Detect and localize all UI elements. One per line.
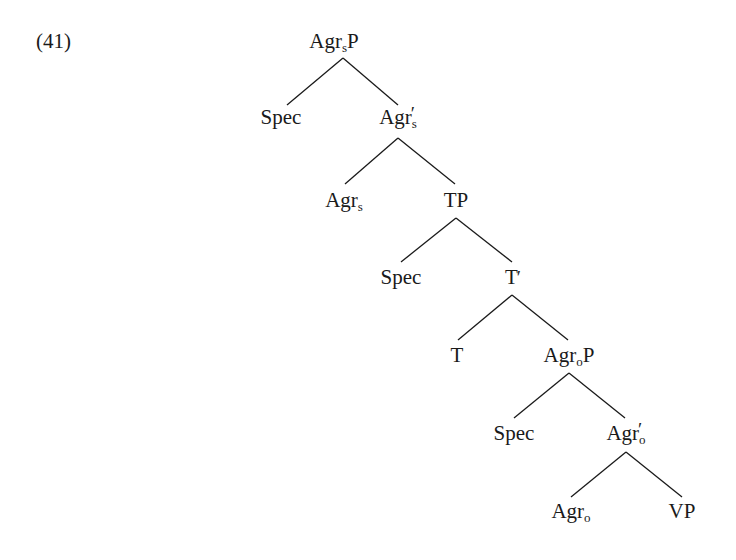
bar-level-prime: ′	[638, 420, 642, 439]
tree-branch-t-bar-to-agrop	[512, 295, 568, 340]
tree-branch-tp-to-t-bar	[456, 218, 512, 262]
node-label: Agr	[551, 499, 584, 523]
tree-branch-tp-to-spec2	[401, 218, 456, 262]
tree-branch-agrop-to-agro-bar	[569, 373, 625, 418]
node-subscript: s	[358, 199, 363, 214]
tree-node-agrsp: AgrsP	[309, 31, 358, 52]
tree-branch-agrsp-to-spec1	[287, 58, 343, 105]
tree-branch-agro-bar-to-vp	[626, 452, 682, 497]
node-label: Agr	[325, 188, 358, 212]
node-label: VP	[669, 499, 696, 523]
tree-node-t-bar: T′	[505, 267, 521, 288]
tree-node-agro-bar: Agr′o	[606, 423, 645, 444]
tree-branch-agrsp-to-agrs-bar	[343, 58, 398, 105]
node-label: Agr	[606, 421, 639, 445]
node-label: Agr	[309, 29, 342, 53]
node-suffix: P	[347, 29, 359, 53]
node-label: T	[451, 343, 464, 367]
tree-node-spec2: Spec	[381, 267, 422, 288]
tree-node-t: T	[451, 345, 464, 366]
tree-branch-t-bar-to-t	[458, 295, 512, 340]
tree-branch-agrs-bar-to-agrs	[345, 138, 398, 184]
bar-level-prime: ′	[411, 104, 415, 123]
node-label: Spec	[494, 421, 535, 445]
node-label: Agr	[379, 105, 412, 129]
tree-node-agrop: AgroP	[544, 345, 595, 366]
node-label: TP	[444, 188, 469, 212]
tree-node-vp: VP	[669, 501, 696, 522]
tree-node-tp: TP	[444, 190, 469, 211]
tree-node-agrs-bar: Agr′s	[379, 107, 417, 128]
node-label: Spec	[381, 265, 422, 289]
node-subscript: o	[584, 510, 591, 525]
node-suffix: P	[583, 343, 595, 367]
node-label: Agr	[544, 343, 577, 367]
tree-node-agro: Agro	[551, 501, 590, 522]
node-label: Spec	[261, 105, 302, 129]
tree-branch-agro-bar-to-agro	[571, 452, 626, 497]
tree-branch-agrop-to-spec3	[514, 373, 569, 418]
tree-branch-agrs-bar-to-tp	[398, 138, 455, 184]
node-label: T	[505, 265, 518, 289]
tree-node-spec1: Spec	[261, 107, 302, 128]
tree-node-spec3: Spec	[494, 423, 535, 444]
tree-edges	[0, 0, 736, 560]
tree-node-agrs: Agrs	[325, 190, 363, 211]
bar-level-prime: ′	[517, 267, 521, 288]
